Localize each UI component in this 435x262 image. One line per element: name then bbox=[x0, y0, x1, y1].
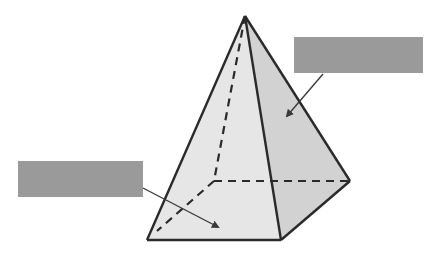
front-face-label bbox=[18, 161, 143, 197]
right-face-label bbox=[294, 37, 423, 73]
